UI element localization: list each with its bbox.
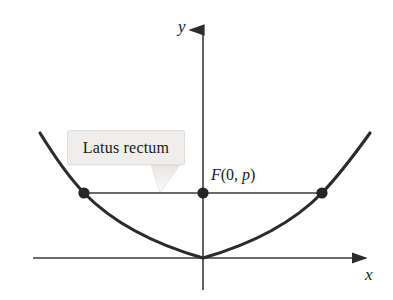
- latus-rectum-callout: Latus rectum: [67, 130, 185, 165]
- focus-label-y-value: p: [242, 166, 250, 183]
- focus-label-function-letter: F: [211, 166, 221, 183]
- focus-label-close-paren: ): [250, 166, 255, 183]
- parabola-figure: y x F(0, p) Latus rectum: [0, 0, 393, 300]
- y-axis-label: y: [178, 18, 186, 35]
- focus-point-label: F(0, p): [211, 167, 255, 183]
- focus-point: [197, 187, 208, 198]
- figure-canvas: [0, 0, 393, 300]
- latus-rectum-left-point: [78, 187, 89, 198]
- latus-rectum-callout-label: Latus rectum: [83, 139, 169, 157]
- latus-rectum-right-point: [316, 187, 327, 198]
- callout-tail: [150, 162, 182, 193]
- focus-label-x-value: 0: [226, 166, 234, 183]
- focus-label-separator: ,: [234, 166, 242, 183]
- x-axis-label: x: [365, 266, 373, 283]
